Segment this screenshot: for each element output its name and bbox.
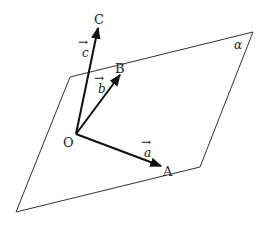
label-origin-o: O xyxy=(63,135,74,150)
label-vector-b: b xyxy=(98,82,106,96)
label-plane-alpha: α xyxy=(234,38,242,52)
label-point-c: C xyxy=(94,12,104,27)
plane-alpha xyxy=(16,32,253,212)
vector-diagram: O A B C α → c → b → a xyxy=(0,0,266,228)
label-vector-a: a xyxy=(144,146,151,160)
label-point-b: B xyxy=(115,61,125,76)
label-vector-c: c xyxy=(82,46,89,60)
label-point-a: A xyxy=(162,164,173,179)
